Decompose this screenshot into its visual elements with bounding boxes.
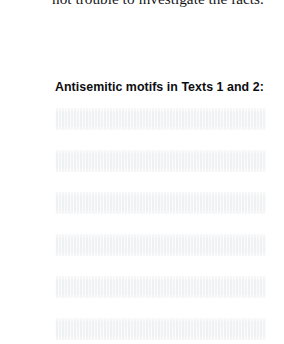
placeholder-text-row	[55, 276, 266, 298]
placeholder-text-row	[55, 234, 266, 256]
placeholder-text-row	[55, 192, 266, 214]
body-paragraph: not trouble to investigate the facts.	[52, 0, 274, 9]
section-heading: Antisemitic motifs in Texts 1 and 2:	[55, 80, 264, 94]
body-line: not trouble to investigate the facts.	[52, 0, 274, 9]
placeholder-text-row	[55, 108, 266, 130]
placeholder-text-row	[55, 318, 266, 340]
placeholder-text-list	[55, 108, 266, 340]
placeholder-text-row	[55, 150, 266, 172]
document-page: not trouble to investigate the facts. An…	[0, 0, 284, 344]
